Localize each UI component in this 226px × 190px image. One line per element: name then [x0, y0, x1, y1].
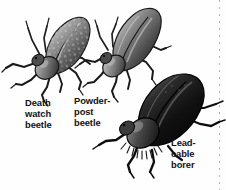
label-death-watch-beetle: Death watch beetle	[25, 97, 52, 130]
dotted-rule	[219, 0, 220, 190]
death-watch-beetle-drawing	[2, 17, 90, 106]
label-lead-cable-borer: Lead- cable borer	[171, 137, 196, 170]
beetle-illustration-figure: Death watch beetle Powder- post beetle L…	[0, 0, 226, 190]
death-watch-antennae	[26, 18, 49, 55]
label-powder-post-beetle: Powder- post beetle	[74, 95, 110, 128]
